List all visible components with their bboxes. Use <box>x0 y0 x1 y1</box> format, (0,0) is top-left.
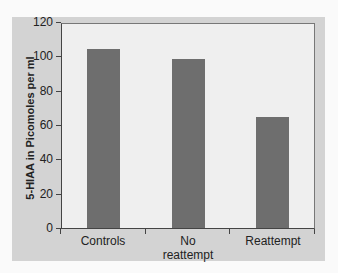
bar-no-reattempt <box>172 59 205 228</box>
chart-canvas: 5-HIAA in Picomoles per ml 0204060801001… <box>0 0 338 273</box>
y-tick-mark <box>56 194 61 195</box>
y-tick-mark <box>56 91 61 92</box>
y-tick-label: 80 <box>23 85 53 97</box>
y-tick-label: 0 <box>23 222 53 234</box>
y-tick-label: 60 <box>23 119 53 131</box>
y-tick-label: 100 <box>23 50 53 62</box>
y-tick-label: 40 <box>23 153 53 165</box>
y-tick-mark <box>56 159 61 160</box>
y-tick-mark <box>56 125 61 126</box>
y-tick-label: 120 <box>23 16 53 28</box>
y-tick-label: 20 <box>23 188 53 200</box>
bar-reattempt <box>256 117 289 228</box>
bar-controls <box>87 49 120 228</box>
y-tick-mark <box>56 22 61 23</box>
x-tick-label: Reattempt <box>231 234 315 248</box>
y-tick-mark <box>56 56 61 57</box>
x-tick-label: Noreattempt <box>146 234 230 262</box>
x-tick-label: Controls <box>61 234 145 248</box>
